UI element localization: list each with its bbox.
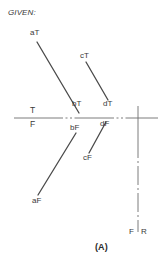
profile-fold-label-front: F: [129, 228, 134, 236]
point-label-aF: aF: [32, 197, 42, 205]
segment-cT-dT: [86, 62, 108, 100]
diagram-canvas: GIVEN: aT bT cT dT aF bF cF dF T F F R (…: [0, 0, 161, 266]
segment-aF-bF: [38, 133, 76, 195]
point-label-aT: aT: [30, 29, 40, 37]
profile-fold-label-right: R: [141, 228, 147, 236]
fold-line-label-top: T: [30, 106, 35, 115]
fold-line-label-front: F: [30, 120, 35, 129]
point-label-dT: dT: [103, 100, 113, 108]
figure-caption: (A): [95, 243, 108, 252]
point-label-bF: bF: [70, 124, 80, 132]
diagram-svg: [0, 0, 161, 266]
given-label: GIVEN:: [8, 9, 36, 17]
point-label-dF: dF: [100, 120, 110, 128]
point-label-cF: cF: [83, 154, 92, 162]
point-label-cT: cT: [80, 52, 89, 60]
point-label-bT: bT: [72, 100, 82, 108]
